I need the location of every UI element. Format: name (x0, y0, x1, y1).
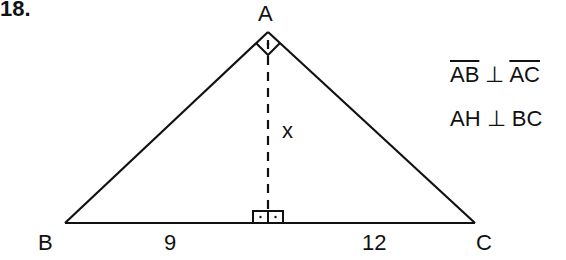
segment-ac: AC (509, 62, 540, 87)
segment-bc: BC (512, 106, 543, 131)
vertex-label-c: C (476, 232, 492, 254)
segment-label-bh: 9 (164, 232, 176, 254)
relation-ab-perp-ac: AB ⊥ AC (450, 64, 540, 86)
segment-label-ah: x (282, 120, 293, 142)
side-ab (65, 32, 268, 223)
vertex-label-a: A (258, 3, 273, 25)
relation-ah-perp-bc: AH ⊥ BC (450, 108, 542, 130)
vertex-label-b: B (38, 232, 53, 254)
perpendicular-symbol: ⊥ (485, 62, 504, 87)
segment-ah: AH (450, 106, 481, 131)
segment-label-hc: 12 (362, 232, 386, 254)
perpendicular-symbol: ⊥ (487, 106, 506, 131)
side-ac (268, 32, 475, 223)
segment-ab: AB (450, 62, 479, 87)
